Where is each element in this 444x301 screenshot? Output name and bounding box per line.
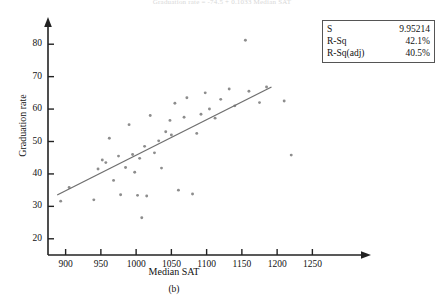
data-point: [140, 216, 143, 219]
data-point: [59, 200, 62, 203]
data-point: [153, 151, 156, 154]
data-point: [138, 157, 141, 160]
data-point: [173, 102, 176, 105]
y-tick-label: 70: [20, 71, 42, 81]
y-tick-marks: [48, 44, 54, 239]
y-tick-label: 20: [20, 233, 42, 243]
data-point: [290, 154, 293, 157]
data-point: [208, 108, 211, 111]
axes-group: [44, 17, 371, 259]
data-point: [183, 116, 186, 119]
data-point: [164, 130, 167, 133]
data-point: [108, 137, 111, 140]
data-point: [145, 195, 148, 198]
data-point: [195, 132, 198, 135]
y-tick-label: 60: [20, 103, 42, 113]
scatter-plot-figure: Graduation rate = -74.5 + 0.1033 Median …: [0, 0, 444, 301]
data-point: [104, 161, 107, 164]
data-point: [131, 153, 134, 156]
data-point: [219, 98, 222, 101]
data-point: [228, 88, 231, 91]
y-tick-label: 50: [20, 136, 42, 146]
data-point: [204, 91, 207, 94]
data-point: [283, 100, 286, 103]
figure-caption-text: (b): [168, 284, 179, 294]
data-point: [214, 117, 217, 120]
data-point: [92, 198, 95, 201]
data-point: [136, 194, 139, 197]
data-point: [124, 166, 127, 169]
data-point: [185, 96, 188, 99]
data-point: [265, 86, 268, 89]
y-tick-label: 30: [20, 200, 42, 210]
y-tick-label: 40: [20, 168, 42, 178]
data-point: [244, 39, 247, 42]
data-point: [119, 193, 122, 196]
data-point: [191, 193, 194, 196]
data-point: [157, 139, 160, 142]
x-axis-arrow-icon: [361, 251, 371, 259]
data-point: [117, 155, 120, 158]
figure-caption: (b): [0, 284, 444, 294]
regression-line: [57, 87, 271, 195]
y-axis-arrow-icon: [44, 17, 52, 27]
data-point: [247, 90, 250, 93]
data-point: [112, 179, 115, 182]
data-point: [258, 101, 261, 104]
data-point: [169, 119, 172, 122]
x-tick-marks: [66, 249, 313, 255]
data-point: [170, 134, 173, 137]
data-point: [143, 145, 146, 148]
data-points-group: [59, 39, 292, 219]
x-axis-label-text: Median SAT: [149, 266, 200, 277]
data-point: [97, 168, 100, 171]
x-axis-label: Median SAT: [0, 266, 444, 277]
plot-area: [0, 0, 444, 301]
data-point: [149, 114, 152, 117]
data-point: [133, 171, 136, 174]
y-tick-label: 80: [20, 38, 42, 48]
data-point: [200, 113, 203, 116]
data-point: [177, 189, 180, 192]
data-point: [160, 167, 163, 170]
data-point: [101, 159, 104, 162]
data-point: [128, 123, 131, 126]
